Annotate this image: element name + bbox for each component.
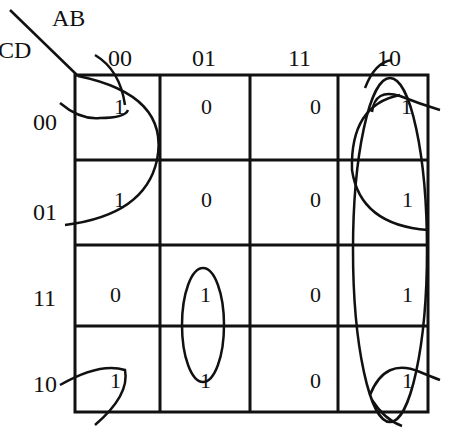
row-variable-label: CD xyxy=(0,38,31,62)
cell-00-10: 1 xyxy=(401,96,412,118)
column-header-10: 10 xyxy=(377,46,401,70)
cell-01-01: 0 xyxy=(201,189,212,211)
cell-10-01: 1 xyxy=(200,370,211,392)
karnaugh-map: AB CD 00 01 11 10 00 01 11 10 1 0 0 1 1 … xyxy=(0,0,449,439)
column-header-01: 01 xyxy=(192,46,216,70)
cell-11-11: 0 xyxy=(310,284,321,306)
cell-11-00: 0 xyxy=(110,284,121,306)
cell-10-00: 1 xyxy=(110,370,121,392)
row-header-11: 11 xyxy=(33,286,56,310)
cell-01-00: 1 xyxy=(114,189,125,211)
row-header-10: 10 xyxy=(33,372,57,396)
column-variable-label: AB xyxy=(52,6,85,30)
cell-01-10: 1 xyxy=(402,189,413,211)
cell-10-11: 0 xyxy=(310,370,321,392)
row-header-01: 01 xyxy=(33,200,57,224)
cell-01-11: 0 xyxy=(310,189,321,211)
column-header-11: 11 xyxy=(288,46,311,70)
cell-00-01: 0 xyxy=(201,96,212,118)
cell-11-01: 1 xyxy=(200,284,211,306)
column-header-00: 00 xyxy=(108,46,132,70)
row-header-00: 00 xyxy=(33,110,57,134)
cell-11-10: 1 xyxy=(402,284,413,306)
cell-10-10: 1 xyxy=(402,370,413,392)
cell-00-11: 0 xyxy=(310,96,321,118)
cell-00-00: 1 xyxy=(114,96,125,118)
